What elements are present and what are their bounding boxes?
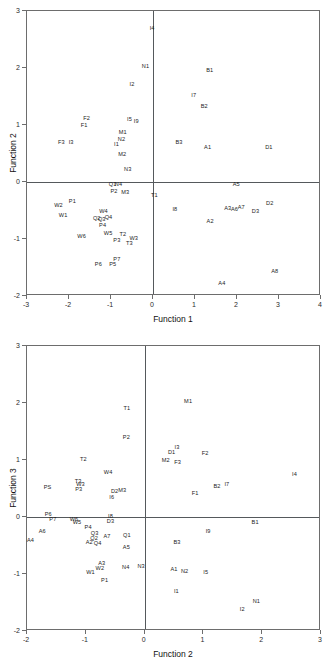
data-point-label: A4	[27, 537, 34, 543]
data-point-label: A5	[123, 544, 130, 550]
data-point-label: A2	[207, 218, 214, 224]
data-point-label: N3	[137, 563, 144, 569]
x-axis-tick-label: -2	[23, 636, 29, 643]
data-point-label: W4	[104, 469, 113, 475]
scatter-plot-function1-function2: I4N1B1I2I7B2F2I5I9F1M1N2F3I3I1B3A1D1M2N3…	[0, 0, 328, 335]
x-axis-tick	[85, 630, 86, 634]
data-point-label: T1	[124, 405, 131, 411]
y-axis-tick-label: -2	[6, 292, 20, 299]
x-axis-tick-label: -2	[65, 301, 71, 308]
data-point-label: A1	[204, 144, 211, 150]
x-axis-tick	[26, 295, 27, 299]
x-axis-tick-label: 1	[192, 301, 196, 308]
data-point-label: I4	[150, 25, 155, 31]
x-axis-tick	[261, 630, 262, 634]
data-point-label: A7	[103, 533, 110, 539]
data-point-label: N4	[115, 181, 122, 187]
y-axis-tick	[22, 238, 26, 239]
x-axis-tick-label: 0	[142, 636, 146, 643]
data-point-label: PS	[44, 484, 52, 490]
data-point-label: D1	[168, 449, 175, 455]
data-point-label: P7	[49, 516, 56, 522]
data-point-label: I2	[240, 606, 245, 612]
data-point-label: B2	[201, 103, 208, 109]
data-point-label: F1	[192, 490, 199, 496]
data-point-label: A8	[271, 268, 278, 274]
data-point-label: P2	[123, 434, 130, 440]
x-axis-tick	[236, 295, 237, 299]
x-axis-tick	[152, 295, 153, 299]
data-point-label: W1	[86, 569, 95, 575]
x-axis-title: Function 2	[153, 650, 193, 659]
x-axis-tick-label: 3	[276, 301, 280, 308]
y-axis-tick-label: -2	[6, 627, 20, 634]
data-point-label: P2	[110, 188, 117, 194]
x-axis-tick-label: 2	[259, 636, 263, 643]
data-point-label: P3	[113, 237, 120, 243]
data-point-label: I2	[130, 81, 135, 87]
data-point-label: P6	[95, 261, 102, 267]
data-point-label: Q4	[94, 540, 102, 546]
data-point-label: A5	[233, 181, 240, 187]
y-axis-title: Function 3	[9, 468, 18, 508]
x-axis-tick	[26, 630, 27, 634]
data-point-label: A1	[170, 566, 177, 572]
data-point-label: B1	[252, 519, 259, 525]
y-axis-tick	[22, 124, 26, 125]
x-axis-tick-label: -3	[23, 301, 29, 308]
data-point-label: D1	[265, 144, 272, 150]
data-point-label: I6	[109, 494, 114, 500]
data-point-label: P1	[101, 577, 108, 583]
data-point-label: W2	[54, 202, 63, 208]
data-point-label: A4	[218, 280, 225, 286]
data-point-label: T1	[151, 192, 158, 198]
data-point-label: M2	[162, 457, 170, 463]
x-axis-tick	[110, 295, 111, 299]
y-axis-tick	[22, 630, 26, 631]
data-point-label: Q4	[105, 214, 113, 220]
x-axis-tick	[278, 295, 279, 299]
x-axis-title: Function 1	[153, 315, 193, 324]
data-point-label: N1	[142, 63, 149, 69]
y-axis-tick	[22, 10, 26, 11]
zero-line-horizontal	[27, 182, 319, 183]
y-axis-tick-label: 3	[6, 342, 20, 349]
data-point-label: B2	[213, 483, 220, 489]
y-axis-tick	[22, 573, 26, 574]
data-point-label: N2	[118, 136, 125, 142]
scatter-plot-function2-function3: M1T1P2I3D1F2T2M2F3W4I4T3W3B2I7PSP3D2M3F1…	[0, 335, 328, 670]
data-point-label: F2	[202, 450, 209, 456]
data-point-label: F3	[174, 459, 181, 465]
data-point-label: I9	[206, 528, 211, 534]
data-point-label: M1	[119, 129, 127, 135]
data-point-label: I8	[172, 206, 177, 212]
data-point-label: W4	[99, 208, 108, 214]
zero-line-vertical	[153, 11, 154, 294]
data-point-label: I7	[224, 481, 229, 487]
data-point-label: T2	[80, 456, 87, 462]
y-axis-tick-label: 2	[6, 399, 20, 406]
x-axis-tick-label: -1	[107, 301, 113, 308]
data-point-label: W6	[77, 233, 86, 239]
data-point-label: I5	[203, 569, 208, 575]
data-point-label: D2	[111, 488, 118, 494]
data-point-label: M2	[118, 151, 126, 157]
y-axis-title: Function 2	[9, 133, 18, 173]
data-point-label: P4	[99, 222, 106, 228]
data-point-label: P3	[75, 486, 82, 492]
data-point-label: D3	[107, 518, 114, 524]
x-axis-tick	[320, 630, 321, 634]
zero-line-vertical	[145, 346, 146, 629]
y-axis-tick-label: 0	[6, 513, 20, 520]
data-point-label: M3	[118, 487, 126, 493]
data-point-label: D2	[266, 200, 273, 206]
y-axis-tick-label: -1	[6, 235, 20, 242]
y-axis-tick-label: 1	[6, 456, 20, 463]
data-point-label: D3	[252, 208, 259, 214]
data-point-label: F2	[83, 115, 90, 121]
y-axis-tick	[22, 402, 26, 403]
x-axis-tick-label: 2	[234, 301, 238, 308]
data-point-label: F1	[81, 122, 88, 128]
y-axis-tick	[22, 345, 26, 346]
data-point-label: N3	[124, 166, 131, 172]
